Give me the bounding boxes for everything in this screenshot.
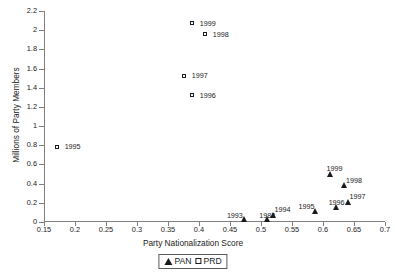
- chart-legend: PAN PRD: [158, 254, 227, 269]
- y-tick-label: 0.2: [27, 199, 37, 206]
- data-point-label: 1993: [227, 212, 243, 219]
- data-point-label: 1995: [65, 143, 81, 150]
- y-tick-mark: [39, 30, 44, 31]
- data-point-prd-1996: [190, 93, 194, 97]
- y-tick-label: 0.8: [27, 141, 37, 148]
- data-point-label: 1999: [326, 165, 342, 172]
- legend-entry-pan: PAN: [164, 256, 191, 266]
- y-tick-label: 2: [33, 26, 37, 33]
- x-tick-label: 0.7: [370, 226, 395, 234]
- x-tick-label: 0.45: [215, 226, 245, 234]
- plot-area: [44, 11, 385, 222]
- data-point-label: 1996: [329, 199, 345, 206]
- legend-label-prd: PRD: [203, 256, 221, 266]
- data-point-label: 1997: [349, 193, 365, 200]
- data-point-prd-1998: [203, 32, 207, 36]
- data-point-label: 1997: [192, 72, 208, 79]
- legend-entry-prd: PRD: [195, 256, 221, 266]
- y-tick-mark: [39, 164, 44, 165]
- data-point-label: 1999: [200, 20, 216, 27]
- y-tick-mark: [39, 107, 44, 108]
- filled-triangle-icon: [164, 258, 172, 265]
- y-tick-mark: [39, 11, 44, 12]
- y-tick-mark: [39, 49, 44, 50]
- y-tick-label: 0.6: [27, 160, 37, 167]
- x-tick-label: 0.6: [308, 226, 338, 234]
- data-point-label: 1994: [274, 206, 290, 213]
- y-tick-mark: [39, 145, 44, 146]
- y-tick-label: 1.6: [27, 65, 37, 72]
- x-tick-label: 0.25: [91, 226, 121, 234]
- x-axis-title: Party Nationalization Score: [0, 238, 386, 248]
- y-tick-label: 1.2: [27, 103, 37, 110]
- data-point-label: 1996: [200, 92, 216, 99]
- y-tick-label: 0.4: [27, 180, 37, 187]
- x-tick-label: 0.65: [339, 226, 369, 234]
- y-tick-mark: [39, 203, 44, 204]
- x-tick-label: 0.4: [184, 226, 214, 234]
- data-point-prd-1999: [190, 21, 194, 25]
- data-point-prd-1995: [55, 145, 59, 149]
- y-tick-label: 1.8: [27, 45, 37, 52]
- y-tick-mark: [39, 184, 44, 185]
- y-tick-mark: [39, 69, 44, 70]
- x-tick-label: 0.35: [153, 226, 183, 234]
- y-tick-label: 2.2: [27, 7, 37, 14]
- x-tick-label: 0.15: [29, 226, 59, 234]
- y-tick-mark: [39, 88, 44, 89]
- y-tick-label: 1.4: [27, 84, 37, 91]
- data-point-label: 1998: [346, 177, 362, 184]
- x-tick-label: 0.3: [122, 226, 152, 234]
- y-tick-label: 1: [33, 122, 37, 129]
- x-tick-label: 0.2: [60, 226, 90, 234]
- x-tick-label: 0.55: [277, 226, 307, 234]
- data-point-label: 1998: [213, 31, 229, 38]
- open-square-icon: [195, 258, 201, 264]
- data-point-label: 1995: [299, 203, 315, 210]
- data-point-prd-1997: [182, 74, 186, 78]
- x-tick-label: 0.5: [246, 226, 276, 234]
- y-axis-title: Millions of Party Members: [11, 45, 21, 185]
- legend-label-pan: PAN: [174, 256, 191, 266]
- y-tick-mark: [39, 126, 44, 127]
